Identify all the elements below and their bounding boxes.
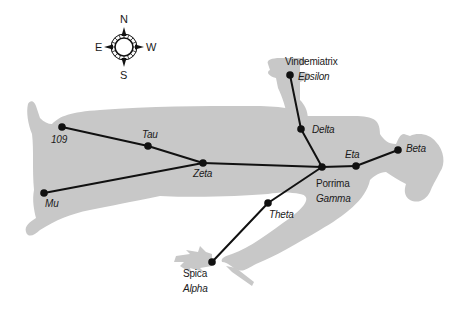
label-gamma: Gamma (316, 193, 351, 204)
label-alpha: Alpha (183, 283, 208, 294)
label-mu: Mu (45, 198, 59, 209)
compass-west-label: W (146, 42, 156, 53)
label-theta: Theta (269, 209, 294, 220)
label-vindemiatrix: Vindemiatrix (285, 56, 337, 67)
compass-east-label: E (95, 42, 102, 53)
compass-rose-icon (0, 0, 470, 314)
label-zeta: Zeta (193, 168, 212, 179)
label-epsilon: Epsilon (298, 71, 329, 82)
constellation-diagram: N S E W 109 Tau Zeta Mu Porrima Gamma Et… (0, 0, 470, 314)
label-delta: Delta (312, 124, 334, 135)
compass-north-label: N (120, 14, 128, 25)
label-eta: Eta (345, 149, 359, 160)
label-tau: Tau (142, 129, 158, 140)
label-beta: Beta (406, 143, 426, 154)
compass-south-label: S (120, 70, 127, 81)
label-109: 109 (51, 134, 67, 145)
label-porrima: Porrima (316, 178, 350, 189)
label-spica: Spica (183, 268, 207, 279)
